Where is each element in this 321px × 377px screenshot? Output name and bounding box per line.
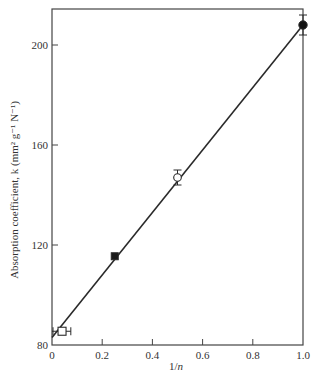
chart: 80120160200 00.20.40.60.81.0 1/n Absorpt… — [0, 0, 321, 377]
y-tick-label: 200 — [32, 39, 49, 51]
x-tick-label: 0.6 — [196, 349, 210, 361]
y-axis-ticks: 80120160200 — [32, 39, 59, 351]
x-axis-ticks: 00.20.40.60.81.0 — [49, 339, 310, 361]
x-tick-label: 1.0 — [296, 349, 310, 361]
y-tick-label: 160 — [32, 139, 49, 151]
data-points — [52, 15, 307, 335]
x-tick-label: 0.8 — [246, 349, 260, 361]
data-point-open-circle — [174, 170, 182, 185]
data-point-filled-circle — [299, 15, 307, 35]
x-tick-label: 0.2 — [95, 349, 109, 361]
y-axis-label: Absorption coefficient, k (mm² g⁻¹ N⁻¹) — [8, 101, 21, 279]
data-point-filled-square — [111, 253, 118, 260]
x-axis-label: 1/n — [169, 360, 184, 372]
x-tick-label: 0 — [49, 349, 55, 361]
y-tick-label: 80 — [37, 339, 49, 351]
x-tick-label: 0.4 — [146, 349, 160, 361]
y-tick-label: 120 — [32, 239, 49, 251]
